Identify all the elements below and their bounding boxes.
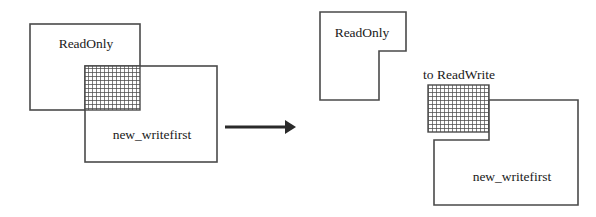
right-converted-region <box>428 85 489 132</box>
diagram-canvas: ReadOnly new_writefirst ReadOnly to Read… <box>0 0 596 217</box>
right-writefirst-label: new_writefirst <box>473 169 552 184</box>
left-readonly-label: ReadOnly <box>59 36 114 51</box>
right-readonly-label: ReadOnly <box>335 25 390 40</box>
left-overlap-region <box>85 66 140 110</box>
region-transition-diagram: ReadOnly new_writefirst ReadOnly to Read… <box>0 0 596 217</box>
left-panel-before: ReadOnly new_writefirst <box>30 24 217 162</box>
left-writefirst-label: new_writefirst <box>113 127 192 142</box>
right-panel-after: ReadOnly to ReadWrite new_writefirst <box>320 12 578 205</box>
transition-arrow <box>225 120 296 134</box>
arrow-head-icon <box>285 120 296 134</box>
right-converted-region-label: to ReadWrite <box>423 67 495 82</box>
